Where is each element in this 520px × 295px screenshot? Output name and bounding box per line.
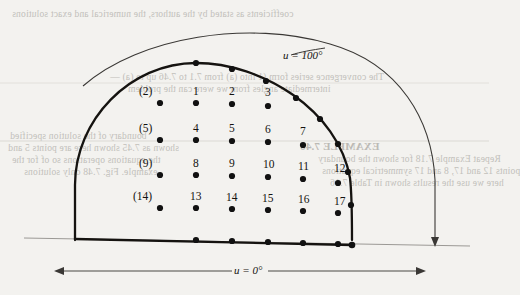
arc-node [193,60,199,66]
node-label-paren-9: (9) [139,158,152,170]
node-label-7: 7 [300,126,306,138]
grid-node [300,176,306,182]
grid-node [229,173,235,179]
node-label-16: 16 [298,194,310,206]
grid-node [157,205,163,211]
baseline-node [349,242,356,249]
grid-node [157,172,163,178]
node-label-6: 6 [265,124,271,136]
arc-node [293,95,299,101]
outer-thin-arc [83,33,435,238]
arc-node [335,141,341,147]
baseline-node [229,238,235,244]
grid-node [265,139,271,145]
node-label-17: 17 [334,196,346,208]
grid-node [229,101,235,107]
node-label-paren-2: (2) [139,86,152,98]
node-label-12: 12 [334,163,346,175]
grid-node [229,206,235,212]
node-label-8: 8 [193,158,199,170]
node-label-14: 14 [226,192,238,204]
boundary-condition-bottom-label: u = 0° [234,265,262,276]
arc-node [317,116,323,122]
interior-grid-nodes [157,100,341,216]
grid-node [265,174,271,180]
node-label-5: 5 [229,123,235,135]
domain-boundary-arc [75,63,352,240]
grid-node [300,142,306,148]
grid-node [229,138,235,144]
node-label-3: 3 [265,87,271,99]
node-label-15: 15 [262,193,274,205]
grid-node [193,100,199,106]
arc-node [229,66,235,72]
grid-node [157,137,163,143]
baseline-node [300,240,306,246]
grid-node [265,207,271,213]
node-label-13: 13 [190,191,202,203]
node-label-4: 4 [193,123,199,135]
domain-baseline [75,239,352,245]
u0-arrowhead-left [54,267,64,275]
grid-node [193,137,199,143]
node-label-2: 2 [229,86,235,98]
grid-node [157,100,163,106]
grid-node [335,210,341,216]
node-label-paren-14: (14) [133,191,152,203]
boundary-condition-top-label: u = 100° [283,50,322,61]
arc-node [263,78,269,84]
node-label-paren-5: (5) [139,123,152,135]
arc-node [348,202,354,208]
baseline-node [193,237,199,243]
grid-node [193,172,199,178]
baseline-node [265,239,271,245]
grid-node [300,208,306,214]
grid-node [335,180,341,186]
node-label-10: 10 [263,159,275,171]
u0-arrowhead-right [416,267,426,275]
node-label-9: 9 [229,158,235,170]
grid-node [193,205,199,211]
node-label-11: 11 [298,161,309,173]
grid-node [265,103,271,109]
node-label-1: 1 [193,86,199,98]
baseline-node [335,241,341,247]
